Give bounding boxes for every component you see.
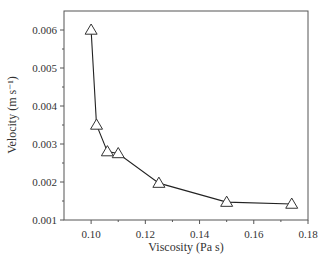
x-tick-label: 0.18 — [298, 228, 318, 240]
x-axis-ticks: 0.100.120.140.160.18 — [81, 220, 318, 240]
y-tick-label: 0.002 — [32, 176, 57, 188]
x-tick-label: 0.12 — [136, 228, 155, 240]
plot-frame — [64, 11, 308, 220]
triangle-marker — [153, 177, 165, 187]
y-axis-title: Velocity (m s⁻¹) — [5, 76, 19, 154]
y-tick-label: 0.001 — [32, 214, 57, 226]
y-tick-label: 0.003 — [32, 138, 57, 150]
y-tick-label: 0.004 — [32, 100, 57, 112]
triangle-marker — [91, 119, 103, 129]
data-markers — [85, 24, 298, 208]
x-tick-label: 0.14 — [190, 228, 210, 240]
line-chart: 0.0010.0020.0030.0040.0050.006 0.100.120… — [0, 0, 328, 267]
triangle-marker — [101, 146, 113, 156]
y-tick-label: 0.006 — [32, 24, 57, 36]
x-axis-title: Viscosity (Pa s) — [148, 240, 223, 254]
triangle-marker — [85, 24, 97, 34]
x-tick-label: 0.10 — [81, 228, 101, 240]
triangle-marker — [286, 198, 298, 208]
y-tick-label: 0.005 — [32, 62, 57, 74]
data-line — [91, 30, 292, 204]
x-tick-label: 0.16 — [244, 228, 264, 240]
y-axis-ticks: 0.0010.0020.0030.0040.0050.006 — [32, 24, 64, 226]
